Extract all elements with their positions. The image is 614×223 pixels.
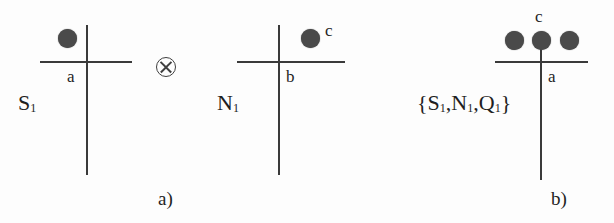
diagram-n1-name-subscript: 1: [233, 101, 239, 115]
diagram-n1-edge-label-b: b: [286, 68, 295, 85]
figure-canvas: a S1 c b N1 c a {S1,N1,Q1} a) b): [0, 0, 614, 223]
caption-b: b): [551, 189, 567, 208]
diagram-s1-name-letter: S: [18, 90, 30, 115]
diagram-set-edge-label-c: c: [535, 8, 543, 25]
diagram-set-dot-left: [505, 31, 524, 50]
diagram-set-edge-label-a: a: [548, 68, 556, 85]
diagram-n1-dot-upper-right: [301, 29, 320, 48]
tensor-product-icon: [156, 57, 176, 77]
diagram-n1-horizontal-line: [237, 61, 345, 63]
diagram-n1-vertical-line: [278, 25, 280, 175]
set-item-2: N: [451, 90, 467, 115]
diagram-s1-name-subscript: 1: [30, 101, 36, 115]
set-item-3: Q: [479, 90, 495, 115]
diagram-s1-edge-label-a: a: [67, 68, 75, 85]
diagram-set-dot-center: [532, 31, 551, 50]
diagram-set-dot-right: [560, 31, 579, 50]
diagram-s1-name-label: S1: [18, 92, 36, 114]
set-item-1: S: [428, 90, 440, 115]
diagram-n1-edge-label-c: c: [325, 22, 333, 39]
diagram-n1-name-label: N1: [217, 92, 239, 114]
diagram-s1-vertical-line: [86, 25, 88, 175]
diagram-s1-dot-upper-left: [58, 29, 77, 48]
set-brace-open: {: [417, 90, 428, 115]
diagram-set-name-label: {S1,N1,Q1}: [417, 92, 511, 114]
caption-a: a): [158, 189, 173, 208]
diagram-n1-name-letter: N: [217, 90, 233, 115]
diagram-set-vertical-line: [540, 38, 542, 180]
set-brace-close: }: [501, 90, 512, 115]
